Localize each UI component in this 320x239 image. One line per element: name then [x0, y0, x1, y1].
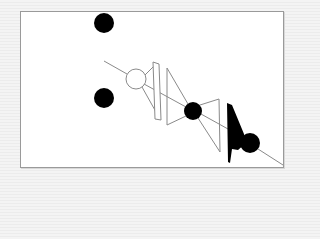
dot-top-left [94, 13, 114, 33]
connector-line [201, 114, 228, 129]
diagram-drawing [0, 0, 300, 177]
slanted-bar [153, 62, 161, 120]
black-wedge [227, 103, 246, 163]
dot-center [184, 102, 202, 120]
connector-line [258, 149, 283, 165]
connector-line [145, 66, 154, 75]
diagram-canvas [0, 0, 300, 177]
ring-center-left [126, 69, 146, 89]
connector-line [200, 99, 219, 105]
dot-mid-left [94, 88, 114, 108]
connector-line [219, 99, 220, 152]
dot-lower-right [240, 133, 260, 153]
connector-line [144, 84, 186, 107]
connector-line [104, 61, 127, 74]
connector-line [167, 116, 186, 125]
